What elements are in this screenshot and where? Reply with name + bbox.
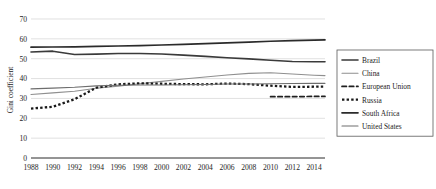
legend-label: China xyxy=(362,69,380,78)
x-tick-label: 2012 xyxy=(285,163,300,172)
x-tick-label: 2008 xyxy=(241,163,256,172)
x-tick-label: 2010 xyxy=(263,163,278,172)
legend-label: Russia xyxy=(362,96,382,105)
y-tick-label: 0 xyxy=(23,154,27,163)
line-chart-canvas: 010203040506070 198819901992199419961998… xyxy=(0,0,436,189)
y-tick-label: 60 xyxy=(19,35,27,44)
legend-label: European Union xyxy=(362,82,411,91)
x-tick-label: 2006 xyxy=(219,163,234,172)
x-tick-label: 1988 xyxy=(23,163,38,172)
y-tick-label: 40 xyxy=(19,74,27,83)
legend-label: United States xyxy=(362,122,402,131)
x-tick-label: 1996 xyxy=(111,163,126,172)
x-tick-label: 2014 xyxy=(307,163,322,172)
legend-label: Brazil xyxy=(362,56,380,65)
x-tick-label: 2004 xyxy=(198,163,213,172)
y-tick-label: 30 xyxy=(19,94,27,103)
x-tick-label: 1994 xyxy=(89,163,104,172)
y-tick-label: 50 xyxy=(19,55,27,64)
y-tick-label: 70 xyxy=(19,15,27,24)
x-tick-label: 2000 xyxy=(154,163,169,172)
x-tick-label: 1990 xyxy=(45,163,60,172)
x-tick-label: 1992 xyxy=(67,163,82,172)
x-tick-label: 2002 xyxy=(176,163,191,172)
y-tick-label: 20 xyxy=(19,114,27,123)
x-tick-label: 1998 xyxy=(132,163,147,172)
y-tick-label: 10 xyxy=(19,134,27,143)
legend: BrazilChinaEuropean UnionRussiaSouth Afr… xyxy=(337,50,433,136)
chart-figure: 010203040506070 198819901992199419961998… xyxy=(0,0,436,189)
legend-label: South Africa xyxy=(362,109,400,118)
y-axis-title: Gini coefficient xyxy=(6,66,15,113)
